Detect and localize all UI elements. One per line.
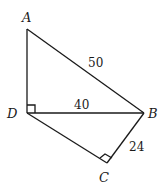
right-angle-marker-D [27,105,35,113]
length-label-CB: 24 [129,140,145,154]
length-label-DB: 40 [74,98,89,112]
label-point-A: A [21,10,31,25]
right-angle-marker-C [100,154,112,158]
label-point-B: B [147,106,158,121]
segment-CB [107,113,144,163]
label-point-C: C [99,170,109,185]
geometry-diagram: A D B C 50 40 24 [0,0,165,190]
segment-DC [27,113,107,163]
label-point-D: D [6,106,18,121]
length-label-AB: 50 [88,56,103,70]
